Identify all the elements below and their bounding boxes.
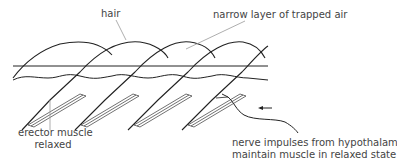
erector-label-line1: erector muscle [18, 127, 88, 139]
nerve-branch [216, 97, 228, 98]
hair-label: hair [101, 8, 120, 20]
nerve-impulse-label: nerve impulses from hypothalamus maintai… [232, 137, 392, 161]
air-leader [186, 21, 245, 49]
epidermis-wave [13, 75, 268, 80]
nerve-label-line1: nerve impulses from hypothalamus [232, 137, 392, 149]
trapped-air-label: narrow layer of trapped air [213, 9, 347, 21]
erector-label-line2: relaxed [18, 139, 88, 151]
nerve-fiber [222, 94, 298, 133]
erector-muscle-label: erector muscle relaxed [18, 127, 88, 151]
arrow-left-icon [258, 106, 272, 110]
nerve-label-line2: maintain muscle in relaxed state [232, 149, 392, 161]
hair-leader [116, 20, 126, 40]
